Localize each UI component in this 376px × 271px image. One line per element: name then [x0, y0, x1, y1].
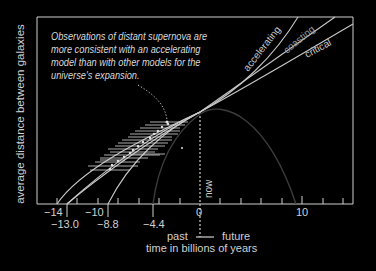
x-axis-title: time in billions of years: [146, 242, 258, 254]
tick-label-m88: −8.8: [97, 218, 119, 230]
tick-label-m14: −14: [44, 206, 63, 218]
future-label: future: [222, 230, 250, 242]
annotation-arrow: [138, 85, 167, 120]
annotation-text: Observations of distant supernova are mo…: [51, 30, 227, 82]
past-label: past: [167, 230, 188, 242]
label-critical: critical: [303, 37, 333, 60]
tick-label-m10: −10: [85, 206, 104, 218]
y-axis-title: average distance between galaxies: [14, 24, 26, 204]
tick-label-10: 10: [296, 206, 308, 218]
curve-collapsing: [153, 109, 296, 204]
tick-label-0: 0: [196, 206, 202, 218]
now-label: now: [203, 179, 214, 198]
tick-label-m13: −13.0: [51, 218, 79, 230]
label-accelerating: accelerating: [241, 24, 283, 73]
x-tick-labels: −14 −10 0 10 −13.0 −8.8 −4.4: [44, 206, 308, 230]
tick-label-m44: −4.4: [143, 218, 165, 230]
